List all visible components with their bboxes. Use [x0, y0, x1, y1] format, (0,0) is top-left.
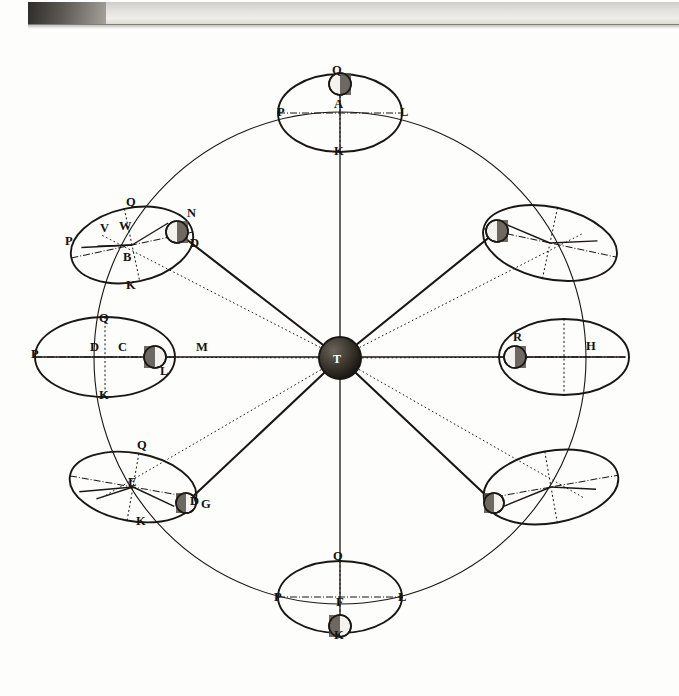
engraving-plate: T QPALKQVWPBKNDQPDCKLMQEKDGQPFLKRH	[0, 0, 679, 696]
dotted-sight-line-upper-left	[102, 235, 324, 349]
epicycle-radius-upper-left-2	[129, 223, 171, 245]
label-upper-left-w: W	[119, 219, 132, 233]
label-bottom-f: F	[336, 595, 344, 609]
moon-shadow-lower-left	[176, 493, 186, 513]
moon-upper-right	[486, 220, 508, 242]
label-lower-left-q: Q	[137, 438, 147, 452]
moon-shadow-left	[144, 346, 155, 368]
dotted-sight-line-lower-right	[355, 367, 583, 497]
ray-to-lower-right	[340, 358, 494, 503]
moon-lower-right	[484, 493, 504, 513]
label-left-q: Q	[99, 311, 109, 325]
moon-shadow-upper-right	[497, 220, 508, 242]
moon-shadow-right	[515, 346, 526, 368]
earth-body-group: T	[319, 337, 361, 379]
label-bottom-l: L	[398, 590, 406, 604]
label-left-l: L	[160, 364, 168, 378]
moon-upper-left	[166, 221, 188, 243]
label-bottom-k: K	[334, 628, 344, 642]
label-left-d: D	[90, 340, 99, 354]
ray-to-lower-left	[186, 358, 340, 503]
label-lower-left-e: E	[128, 475, 136, 489]
epicycle-radii-upper-right	[499, 220, 597, 252]
dotted-sight-line-upper-right	[356, 233, 583, 349]
ray-to-upper-right	[340, 231, 497, 358]
moon-shadow-upper-left	[177, 221, 188, 243]
epicycle-radius-lower-left-2	[131, 487, 176, 506]
label-lower-left-k: K	[136, 514, 146, 528]
label-upper-left-p: P	[65, 234, 73, 248]
label-top-a: A	[334, 97, 343, 111]
epicycle-radius-lower-right-1	[551, 479, 596, 496]
label-right-r: R	[513, 330, 523, 344]
label-left-c: C	[118, 340, 127, 354]
earth-label: T	[333, 352, 341, 366]
label-top-k: K	[334, 144, 344, 158]
label-lower-left-d: D	[190, 494, 199, 508]
label-top-q: Q	[332, 63, 342, 77]
label-top-p: P	[277, 105, 285, 119]
label-left-k: K	[99, 388, 109, 402]
label-left-p: P	[31, 347, 39, 361]
label-upper-left-v: V	[100, 221, 109, 235]
label-upper-left-b: B	[123, 250, 131, 264]
label-upper-left-d: D	[190, 236, 199, 250]
label-left-m: M	[196, 340, 208, 354]
label-upper-left-n: N	[187, 206, 196, 220]
label-upper-left-q: Q	[126, 195, 136, 209]
label-lower-left-g: G	[201, 497, 211, 511]
moon-shadow-lower-right	[484, 493, 494, 513]
label-top-l: L	[400, 105, 408, 119]
label-bottom-p: P	[274, 590, 282, 604]
label-right-h: H	[586, 339, 596, 353]
label-upper-left-k: K	[126, 278, 136, 292]
moon-right	[504, 346, 526, 368]
astronomical-figure: T QPALKQVWPBKNDQPDCKLMQEKDGQPFLKRH	[0, 0, 679, 696]
label-bottom-q: Q	[333, 549, 343, 563]
